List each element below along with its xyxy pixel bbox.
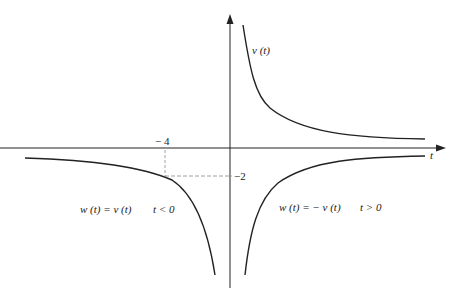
label-left-formula: w (t) = v (t) [80, 204, 131, 215]
curve-w-negative-t [25, 158, 215, 275]
y-axis-arrow-icon [227, 14, 234, 24]
label-right-condition: t > 0 [360, 202, 381, 213]
label-y-tick-minus-2: −2 [234, 171, 246, 182]
plot-canvas [0, 0, 466, 299]
label-x-tick-minus-4: − 4 [155, 136, 169, 147]
label-right-formula: w (t) = − v (t) [279, 202, 341, 213]
curve-w-positive-t [245, 156, 425, 275]
label-t-axis: t [430, 150, 433, 161]
t-axis-arrow-icon [436, 145, 446, 152]
curve-v-of-t [243, 25, 425, 139]
label-left-condition: t < 0 [153, 204, 174, 215]
label-v-curve: v (t) [252, 45, 270, 56]
